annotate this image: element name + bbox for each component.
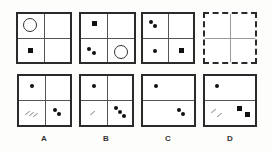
option-b[interactable] bbox=[79, 74, 134, 127]
horizontal-divider bbox=[143, 100, 194, 101]
dot-icon bbox=[122, 114, 126, 118]
square-icon bbox=[28, 48, 33, 53]
square-icon bbox=[237, 106, 242, 111]
dot-icon bbox=[114, 106, 118, 110]
square-icon bbox=[92, 21, 97, 26]
dot-icon bbox=[53, 108, 57, 112]
dot-icon bbox=[153, 49, 157, 53]
question-panel-3 bbox=[141, 12, 195, 64]
option-c-label: C bbox=[158, 134, 178, 143]
option-c[interactable] bbox=[141, 74, 196, 127]
dot-icon bbox=[92, 84, 96, 88]
dot-icon bbox=[153, 24, 157, 28]
dot-icon bbox=[118, 110, 122, 114]
option-d-label: D bbox=[220, 134, 240, 143]
hatch-line-icon bbox=[211, 109, 216, 114]
dot-icon bbox=[87, 47, 91, 51]
question-panel-missing bbox=[203, 12, 257, 64]
dot-icon bbox=[154, 84, 158, 88]
hatch-line-icon bbox=[217, 113, 222, 118]
dot-icon bbox=[177, 108, 181, 112]
dot-icon bbox=[57, 112, 61, 116]
horizontal-divider bbox=[19, 100, 70, 101]
horizontal-divider bbox=[205, 38, 255, 39]
dot-icon bbox=[181, 112, 185, 116]
question-panel-1 bbox=[16, 12, 72, 64]
square-icon bbox=[245, 112, 250, 117]
dot-icon bbox=[149, 20, 153, 24]
horizontal-divider bbox=[143, 38, 193, 39]
circle-icon bbox=[114, 45, 128, 59]
circle-icon bbox=[23, 18, 37, 32]
option-a-label: A bbox=[34, 134, 54, 143]
option-b-label: B bbox=[96, 134, 116, 143]
hatch-line-icon bbox=[33, 113, 38, 118]
dot-icon bbox=[92, 51, 96, 55]
option-d[interactable] bbox=[203, 74, 257, 127]
horizontal-divider bbox=[205, 100, 255, 101]
horizontal-divider bbox=[81, 100, 132, 101]
square-icon bbox=[179, 48, 184, 53]
question-panel-2 bbox=[79, 12, 136, 64]
option-a[interactable] bbox=[17, 74, 72, 127]
horizontal-divider bbox=[81, 38, 134, 39]
horizontal-divider bbox=[18, 38, 70, 39]
hatch-line-icon bbox=[90, 111, 95, 116]
dot-icon bbox=[215, 84, 219, 88]
dot-icon bbox=[30, 84, 34, 88]
